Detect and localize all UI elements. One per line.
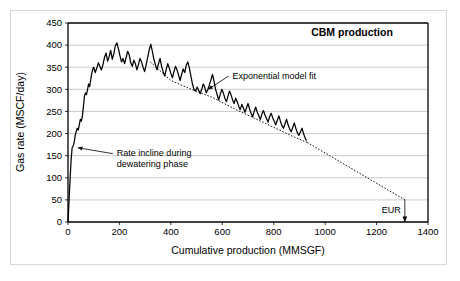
x-tick-label: 800 — [266, 226, 282, 237]
x-tick-label: 600 — [214, 226, 230, 237]
annotation-rate-incline: Rate incline during dewatering phase — [78, 147, 192, 169]
y-tick-label: 300 — [46, 84, 62, 95]
fit-annotation-label: Exponential model fit — [233, 71, 317, 81]
y-tick-label: 400 — [46, 39, 62, 50]
y-tick-label: 50 — [51, 194, 62, 205]
annotation-exponential-model-fit: Exponential model fit — [208, 71, 316, 89]
x-tick-label: 1400 — [417, 226, 438, 237]
cbm-production-chart: 050100150200250300350400450 020040060080… — [0, 0, 460, 281]
x-axis-title: Cumulative production (MMSGF) — [171, 244, 324, 256]
eur-extrapolation-line — [307, 142, 405, 199]
incline-arrowhead — [78, 147, 83, 151]
x-tick-label: 400 — [163, 226, 179, 237]
y-tick-label: 150 — [46, 150, 62, 161]
incline-annotation-line1: Rate incline during — [117, 148, 192, 158]
x-tick-label: 200 — [111, 226, 127, 237]
gas-rate-data-line — [68, 43, 307, 222]
y-axis-title: Gas rate (MSCF/day) — [14, 72, 26, 172]
x-tick-label: 0 — [65, 226, 70, 237]
x-tick-label: 1000 — [315, 226, 336, 237]
y-tick-label: 0 — [57, 216, 62, 227]
y-tick-label: 200 — [46, 128, 62, 139]
incline-annotation-line2: dewatering phase — [117, 159, 188, 169]
x-tick-label: 1200 — [366, 226, 387, 237]
y-tick-label: 350 — [46, 62, 62, 73]
y-axis-tick-labels: 050100150200250300350400450 — [46, 17, 62, 227]
annotation-eur: EUR — [382, 200, 407, 222]
y-tick-label: 250 — [46, 106, 62, 117]
x-axis-tick-labels: 0200400600800100012001400 — [65, 226, 438, 237]
y-tick-label: 100 — [46, 172, 62, 183]
chart-figure: 050100150200250300350400450 020040060080… — [0, 0, 460, 281]
gridlines — [68, 45, 428, 200]
y-tick-label: 450 — [46, 17, 62, 28]
eur-arrowhead — [403, 216, 408, 222]
incline-leader-line — [78, 148, 113, 154]
chart-title: CBM production — [311, 26, 393, 38]
eur-label: EUR — [382, 205, 402, 215]
